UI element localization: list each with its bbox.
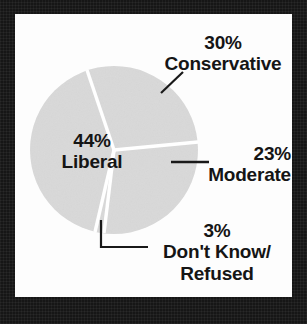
pie-label-dontknow-name-line2: Refused xyxy=(143,263,291,284)
pie-label-moderate-percent: 23% xyxy=(205,143,291,164)
pie-label-liberal-percent: 44% xyxy=(49,130,135,151)
pie-label-dontknow: 3% Don't Know/ Refused xyxy=(143,220,291,284)
pie-label-dontknow-name-line1: Don't Know/ xyxy=(143,241,291,262)
pie-label-conservative-name: Conservative xyxy=(157,53,289,74)
pie-chart-image: 44% Liberal 30% Conservative 23% Moderat… xyxy=(0,0,307,324)
pie-label-liberal-name: Liberal xyxy=(49,151,135,172)
pie-label-moderate-name: Moderate xyxy=(205,164,291,185)
pie-label-dontknow-percent: 3% xyxy=(143,220,291,241)
pie-label-conservative-percent: 30% xyxy=(157,32,289,53)
pie-label-liberal: 44% Liberal xyxy=(49,130,135,173)
chart-plate: 44% Liberal 30% Conservative 23% Moderat… xyxy=(15,14,292,297)
pie-label-conservative: 30% Conservative xyxy=(157,32,289,75)
pie-label-moderate: 23% Moderate xyxy=(205,143,291,186)
